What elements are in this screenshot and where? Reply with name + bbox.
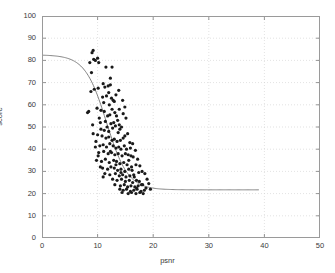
y-tick-label: 70: [8, 79, 36, 87]
y-axis-label: score: [0, 107, 4, 125]
y-tick-label: 50: [8, 123, 36, 131]
x-tick-label: 40: [252, 242, 276, 250]
x-tick-label: 0: [30, 242, 54, 250]
y-tick-label: 60: [8, 101, 36, 109]
x-tick-label: 20: [141, 242, 165, 250]
y-tick-label: 90: [8, 34, 36, 42]
x-tick-label: 10: [86, 242, 110, 250]
y-tick-label: 40: [8, 145, 36, 153]
y-tick-label: 30: [8, 167, 36, 175]
plot-area: [42, 16, 320, 238]
x-tick-label: 50: [308, 242, 332, 250]
scatter-plot-figure: 0102030405060708090100 01020304050 psnr …: [0, 0, 335, 273]
y-tick-label: 20: [8, 190, 36, 198]
x-axis-label: psnr: [0, 256, 335, 265]
y-tick-label: 0: [8, 234, 36, 242]
x-tick-label: 30: [197, 242, 221, 250]
y-tick-label: 10: [8, 212, 36, 220]
plot-frame: [42, 16, 320, 238]
y-tick-label: 80: [8, 56, 36, 64]
y-tick-label: 100: [8, 12, 36, 20]
